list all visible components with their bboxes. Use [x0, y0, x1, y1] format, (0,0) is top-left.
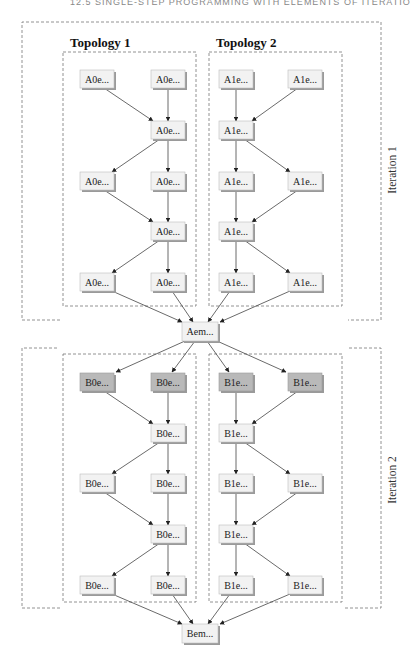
- svg-text:A1e...: A1e...: [224, 226, 248, 237]
- node-i2-t1-r5-left[interactable]: B0e...: [80, 576, 116, 596]
- svg-text:A1e...: A1e...: [224, 125, 248, 136]
- iteration-2-frame: [22, 348, 381, 608]
- svg-text:A0e...: A0e...: [156, 226, 180, 237]
- svg-text:B0e...: B0e...: [156, 428, 180, 439]
- svg-text:B0e...: B0e...: [156, 580, 180, 591]
- node-i2-t1-r4[interactable]: B0e...: [151, 525, 187, 545]
- edges: [104, 88, 298, 624]
- svg-text:A0e...: A0e...: [156, 125, 180, 136]
- node-i2-t1-r2[interactable]: B0e...: [151, 424, 187, 444]
- node-i2-t2-r4[interactable]: B1e...: [219, 525, 255, 545]
- merge-node-iteration-2[interactable]: Bem...: [182, 624, 220, 645]
- iteration-1-label: Iteration 1: [386, 146, 398, 194]
- node-i2-t2-r3-left[interactable]: B1e...: [219, 474, 255, 494]
- merge-node-iteration-1[interactable]: Aem...: [182, 322, 220, 343]
- svg-text:B1e...: B1e...: [224, 580, 248, 591]
- node-i1-t2-r1-right[interactable]: A1e...: [288, 70, 324, 90]
- svg-text:A0e...: A0e...: [156, 277, 180, 288]
- svg-text:B1e...: B1e...: [224, 428, 248, 439]
- svg-text:A0e...: A0e...: [85, 74, 109, 85]
- node-i1-t1-r3-right[interactable]: A0e...: [151, 172, 187, 192]
- node-i2-t2-r3-right[interactable]: B1e...: [288, 474, 324, 494]
- svg-text:B0e...: B0e...: [85, 580, 109, 591]
- svg-text:A0e...: A0e...: [156, 74, 180, 85]
- node-i2-t2-r2[interactable]: B1e...: [219, 424, 255, 444]
- svg-text:B1e...: B1e...: [293, 478, 317, 489]
- svg-text:B1e...: B1e...: [224, 478, 248, 489]
- node-i2-t2-r5-left[interactable]: B1e...: [219, 576, 255, 596]
- node-i1-t1-r5-left[interactable]: A0e...: [80, 273, 116, 293]
- node-i1-t1-r5-right[interactable]: A0e...: [151, 273, 187, 293]
- svg-text:B0e...: B0e...: [156, 478, 180, 489]
- node-i1-t2-r2[interactable]: A1e...: [219, 121, 255, 141]
- svg-text:A1e...: A1e...: [293, 277, 317, 288]
- node-i2-t1-r5-right[interactable]: B0e...: [151, 576, 187, 596]
- svg-text:A1e...: A1e...: [293, 176, 317, 187]
- workflow-diagram: Topology 1 Topology 2 Iteration 1 Iterat…: [0, 0, 414, 655]
- svg-text:Bem...: Bem...: [187, 628, 213, 639]
- svg-text:A0e...: A0e...: [156, 176, 180, 187]
- node-i1-t1-r4[interactable]: A0e...: [151, 222, 187, 242]
- node-i1-t1-r3-left[interactable]: A0e...: [80, 172, 116, 192]
- node-i1-t2-r1-left[interactable]: A1e...: [219, 70, 255, 90]
- node-i2-t2-r1-left[interactable]: B1e...: [219, 373, 255, 393]
- node-i1-t2-r5-right[interactable]: A1e...: [288, 273, 324, 293]
- svg-text:B1e...: B1e...: [224, 529, 248, 540]
- svg-text:B0e...: B0e...: [85, 377, 109, 388]
- node-i1-t1-r1-right[interactable]: A0e...: [151, 70, 187, 90]
- node-i2-t2-r1-right[interactable]: B1e...: [288, 373, 324, 393]
- svg-text:A0e...: A0e...: [85, 277, 109, 288]
- svg-text:B1e...: B1e...: [293, 377, 317, 388]
- node-i2-t2-r5-right[interactable]: B1e...: [288, 576, 324, 596]
- svg-text:B0e...: B0e...: [85, 478, 109, 489]
- svg-text:B1e...: B1e...: [224, 377, 248, 388]
- svg-text:A1e...: A1e...: [224, 176, 248, 187]
- node-i1-t2-r3-right[interactable]: A1e...: [288, 172, 324, 192]
- node-i2-t1-r3-left[interactable]: B0e...: [80, 474, 116, 494]
- topology-2-title: Topology 2: [216, 35, 277, 50]
- node-i1-t2-r3-left[interactable]: A1e...: [219, 172, 255, 192]
- node-i2-t1-r1-left[interactable]: B0e...: [80, 373, 116, 393]
- node-i1-t1-r2[interactable]: A0e...: [151, 121, 187, 141]
- svg-text:A0e...: A0e...: [85, 176, 109, 187]
- iteration-2-label: Iteration 2: [386, 456, 398, 504]
- node-i1-t2-r4[interactable]: A1e...: [219, 222, 255, 242]
- svg-text:Aem...: Aem...: [187, 326, 214, 337]
- svg-text:B1e...: B1e...: [293, 580, 317, 591]
- svg-text:A1e...: A1e...: [224, 74, 248, 85]
- svg-text:A1e...: A1e...: [224, 277, 248, 288]
- svg-text:B0e...: B0e...: [156, 377, 180, 388]
- topology-1-title: Topology 1: [70, 35, 131, 50]
- node-i2-t1-r3-right[interactable]: B0e...: [151, 474, 187, 494]
- node-i2-t1-r1-right[interactable]: B0e...: [151, 373, 187, 393]
- svg-text:B0e...: B0e...: [156, 529, 180, 540]
- svg-text:A1e...: A1e...: [293, 74, 317, 85]
- node-i1-t1-r1-left[interactable]: A0e...: [80, 70, 116, 90]
- iteration-1-frame: [22, 22, 381, 320]
- node-i1-t2-r5-left[interactable]: A1e...: [219, 273, 255, 293]
